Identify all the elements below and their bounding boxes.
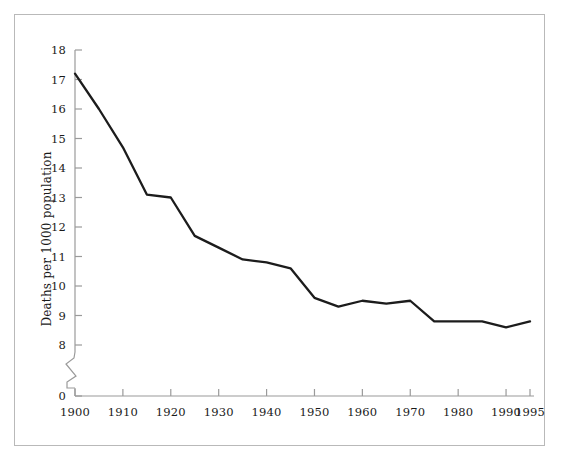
x-tick-label: 1970 (395, 405, 425, 419)
axes (66, 50, 534, 396)
y-tick-label: 18 (51, 43, 66, 57)
y-tick-label: 16 (51, 102, 66, 116)
y-tick-label: 17 (51, 73, 66, 87)
x-tick-label: 1910 (108, 405, 138, 419)
y-tick-label: 11 (51, 250, 66, 264)
x-tick-label: 1980 (443, 405, 473, 419)
x-tick-label: 1960 (347, 405, 377, 419)
y-tick-label: 8 (58, 338, 66, 352)
x-tick-label: 1930 (204, 405, 234, 419)
x-tick-label: 1950 (299, 405, 329, 419)
y-tick-label: 0 (58, 389, 66, 403)
x-tick-label: 1940 (252, 405, 282, 419)
y-tick-label: 14 (51, 161, 66, 175)
data-series-line (75, 74, 530, 328)
y-tick-label: 10 (51, 279, 66, 293)
x-tick-label: 1920 (156, 405, 186, 419)
y-tick-label: 15 (51, 132, 66, 146)
line-chart-plot (0, 0, 564, 465)
y-axis-break-zigzag (66, 352, 76, 388)
y-axis-ticks (75, 50, 82, 396)
y-tick-label: 12 (51, 220, 66, 234)
y-tick-label: 13 (51, 191, 66, 205)
x-axis-ticks (75, 389, 530, 396)
x-tick-label: 1995 (515, 405, 545, 419)
y-tick-label: 9 (58, 309, 66, 323)
x-tick-label: 1900 (60, 405, 90, 419)
chart-page: Deaths per 1000 population 0891011121314… (0, 0, 564, 465)
